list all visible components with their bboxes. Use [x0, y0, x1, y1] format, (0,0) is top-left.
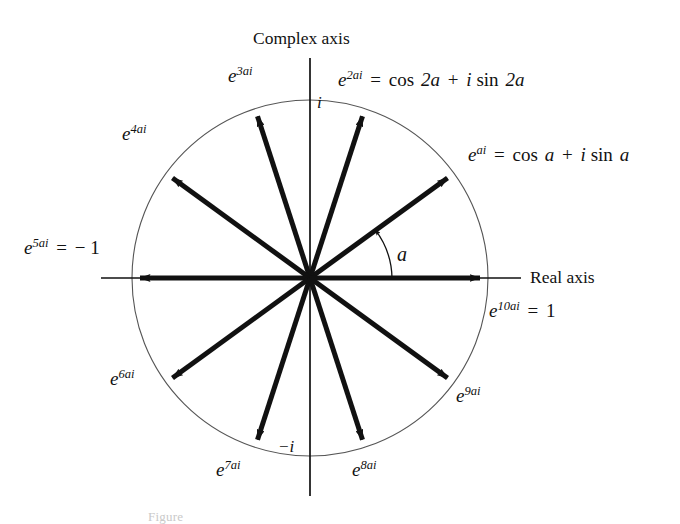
imaginary-unit-positive-label: i [317, 94, 322, 111]
label-e-9ai: e9ai [456, 386, 480, 405]
figure-caption: Figure [148, 509, 183, 524]
vector-e-8ai [310, 278, 363, 440]
label-e-6ai: e6ai [110, 369, 134, 388]
vector-e-2ai [310, 116, 363, 278]
complex-axis-label: Complex axis [253, 30, 350, 48]
vector-e-4ai [173, 178, 311, 278]
label-e-8ai: e8ai [352, 460, 376, 479]
vector-e-3ai [258, 116, 311, 278]
angle-arc [375, 230, 392, 278]
label-e-2ai: e2ai = cos 2a + i sin 2a [338, 70, 525, 89]
vector-e-ai [310, 178, 448, 278]
imaginary-unit-negative-label: −i [278, 438, 294, 455]
vector-e-7ai [258, 278, 311, 440]
vector-e-6ai [173, 278, 311, 378]
complex-plane-figure: Complex axis Real axis i −i a eai = cos … [0, 0, 680, 524]
real-axis-label: Real axis [530, 269, 595, 287]
label-e-4ai: e4ai [122, 124, 146, 143]
angle-label: a [397, 244, 407, 264]
label-e-7ai: e7ai [216, 460, 240, 479]
label-e-5ai: e5ai = − 1 [24, 238, 100, 257]
label-e-3ai: e3ai [228, 66, 252, 85]
label-e-10ai: e10ai = 1 [489, 301, 556, 320]
vector-e-9ai [310, 278, 448, 378]
label-e-ai: eai = cos a + i sin a [468, 145, 629, 164]
